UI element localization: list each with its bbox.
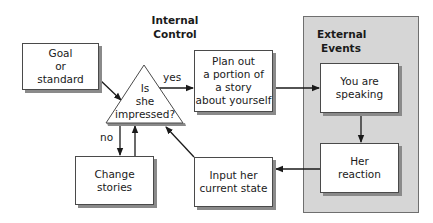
node-text: she [114,95,176,108]
node-text: Goal [49,47,73,60]
node-text: speaking [336,88,383,101]
internal-control-heading: Internal Control [140,13,210,41]
change-stories-node: Change stories [75,156,154,205]
node-text: Her [350,155,369,168]
plan-node: Plan out a portion of a story about your… [194,50,273,112]
node-text: Plan out [212,55,255,68]
arrow-input-to-decision [166,127,194,157]
node-text: stories [97,181,132,194]
node-text: impressed? [114,108,176,121]
node-text: current state [200,182,268,195]
node-text: Input her [210,169,258,182]
no-label: no [100,131,113,143]
heading-line: External [317,27,373,41]
node-text: standard [37,73,84,86]
external-events-heading: External Events [317,27,373,55]
node-text: Is [114,82,176,95]
speaking-node: You are speaking [320,63,399,113]
node-text: a story [215,81,251,94]
node-text: about yourself [196,94,272,107]
goal-node: Goal or standard [22,43,99,90]
heading-line: Control [140,27,210,41]
node-text: You are [340,75,378,88]
node-text: reaction [338,168,381,181]
yes-label: yes [163,71,181,83]
decision-node-text: Is she impressed? [114,82,176,121]
reaction-node: Her reaction [320,143,399,193]
node-text: Change [94,168,134,181]
node-text: or [55,60,66,73]
node-text: a portion of [203,68,264,81]
input-node: Input her current state [194,157,273,207]
heading-line: Events [317,41,373,55]
heading-line: Internal [140,13,210,27]
